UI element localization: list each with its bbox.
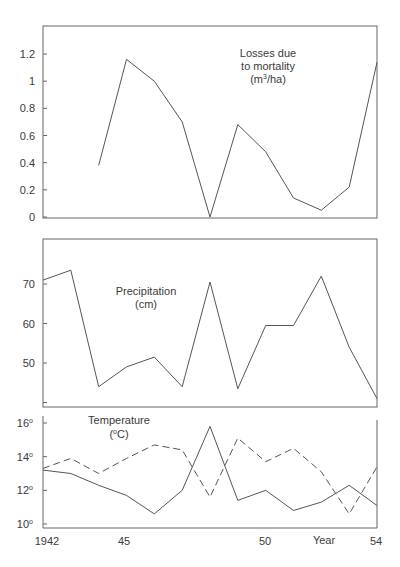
temperature-panel: 16o14o12o10o Temperature (oC) 1942455054… bbox=[17, 414, 382, 547]
x-tick-label: 45 bbox=[118, 535, 130, 547]
x-axis-title: Year bbox=[313, 534, 336, 546]
losses-title-line1: Losses due bbox=[240, 47, 296, 59]
x-tick-label: 54 bbox=[370, 535, 382, 547]
y-tick-label: 0.2 bbox=[20, 184, 35, 196]
y-tick-label: 60 bbox=[23, 318, 35, 330]
y-tick-label: 0.6 bbox=[20, 130, 35, 142]
y-tick-label: 70 bbox=[23, 278, 35, 290]
losses-title-line2: to mortality bbox=[241, 60, 295, 72]
temperature-y-axis: 16o14o12o10o bbox=[17, 417, 47, 530]
losses-line bbox=[99, 59, 377, 217]
y-tick-label: 1.2 bbox=[20, 48, 35, 60]
precipitation-title-line1: Precipitation bbox=[116, 285, 177, 297]
precipitation-panel: 706050 Precipitation (cm) bbox=[23, 239, 377, 407]
precipitation-title-line2: (cm) bbox=[135, 298, 157, 310]
y-tick-label: 10o bbox=[17, 518, 33, 530]
losses-title-line3: (m3/ha) bbox=[250, 73, 286, 85]
y-tick-label: 0 bbox=[29, 211, 35, 223]
y-tick-label: 0.8 bbox=[20, 102, 35, 114]
x-tick-label: 50 bbox=[259, 535, 271, 547]
x-tick-label: 1942 bbox=[35, 535, 59, 547]
losses-panel: 1.210.80.60.40.20 Losses due to mortalit… bbox=[20, 26, 377, 223]
y-tick-label: 0.4 bbox=[20, 157, 35, 169]
y-tick-label: 12o bbox=[17, 484, 33, 496]
y-tick-label: 50 bbox=[23, 357, 35, 369]
temperature-title-line2: (oC) bbox=[109, 428, 128, 440]
y-tick-label: 14o bbox=[17, 451, 33, 463]
y-tick-label: 16o bbox=[17, 417, 33, 429]
precipitation-frame bbox=[43, 239, 377, 407]
y-tick-label: 1 bbox=[29, 75, 35, 87]
temperature-solid-line bbox=[43, 426, 377, 514]
climate-mortality-chart: 1.210.80.60.40.20 Losses due to mortalit… bbox=[0, 0, 400, 567]
temperature-dashed-line bbox=[43, 438, 377, 514]
temperature-title-line1: Temperature bbox=[88, 414, 150, 426]
losses-frame bbox=[43, 26, 377, 218]
precipitation-line bbox=[43, 270, 377, 398]
